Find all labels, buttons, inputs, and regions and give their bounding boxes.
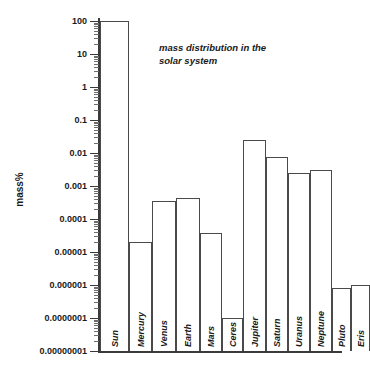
bar-label-eris: Eris <box>356 330 366 347</box>
bar-mercury: Mercury <box>129 242 152 351</box>
y-axis-minor-tick <box>94 163 99 164</box>
bar-uranus: Uranus <box>288 173 310 351</box>
bar-eris: Eris <box>351 285 370 351</box>
y-axis-tick-label: 100 <box>72 17 87 26</box>
bar-label-ceres: Ceres <box>228 322 238 347</box>
y-axis-minor-tick <box>94 34 99 35</box>
chart-title-line-1: mass distribution in the <box>159 41 309 54</box>
y-axis-minor-tick <box>94 287 99 288</box>
y-axis-minor-tick <box>94 335 99 336</box>
y-axis-minor-tick <box>94 189 99 190</box>
y-axis-minor-tick <box>94 89 99 90</box>
y-axis-minor-tick <box>94 122 99 123</box>
y-axis-minor-tick <box>94 90 99 91</box>
y-axis-minor-tick <box>94 71 99 72</box>
bar-label-earth: Earth <box>183 324 193 347</box>
y-axis-minor-tick <box>94 254 99 255</box>
y-axis-minor-tick <box>94 203 99 204</box>
y-axis-minor-tick <box>94 170 99 171</box>
y-axis-minor-tick <box>94 67 99 68</box>
bar-label-mars: Mars <box>206 326 216 347</box>
y-axis-minor-tick <box>94 23 99 24</box>
y-axis-minor-tick <box>94 321 99 322</box>
y-axis-minor-tick <box>94 155 99 156</box>
y-axis-minor-tick <box>94 188 99 189</box>
y-axis-minor-tick <box>94 331 99 332</box>
y-axis-minor-tick <box>94 130 99 131</box>
y-axis-minor-tick <box>94 92 99 93</box>
y-axis-minor-tick <box>94 77 99 78</box>
y-axis-major-tick <box>90 351 99 352</box>
y-axis-minor-tick <box>94 325 99 326</box>
y-axis-minor-tick <box>94 226 99 227</box>
y-axis-minor-tick <box>94 26 99 27</box>
y-axis-minor-tick <box>94 308 99 309</box>
y-axis-tick-label: 0.001 <box>64 182 87 191</box>
y-axis-minor-tick <box>94 31 99 32</box>
y-axis-minor-tick <box>94 125 99 126</box>
y-axis-minor-tick <box>94 28 99 29</box>
y-axis-tick-label: 1 <box>82 83 87 92</box>
y-axis-minor-tick <box>94 59 99 60</box>
y-axis-minor-tick <box>94 110 99 111</box>
y-axis-title: mass% <box>14 160 25 220</box>
y-axis-minor-tick <box>94 137 99 138</box>
y-axis-minor-tick <box>94 292 99 293</box>
y-axis-minor-tick <box>94 94 99 95</box>
y-axis-minor-tick <box>94 193 99 194</box>
y-axis-minor-tick <box>94 265 99 266</box>
chart-title-line-2: solar system <box>159 54 309 67</box>
bar-ceres: Ceres <box>222 318 243 351</box>
bar-sun: Sun <box>100 21 129 351</box>
y-axis-minor-tick <box>94 44 99 45</box>
bar-neptune: Neptune <box>310 170 332 351</box>
bar-pluto: Pluto <box>332 288 351 351</box>
bar-venus: Venus <box>152 201 176 351</box>
y-axis-minor-tick <box>94 224 99 225</box>
y-axis-tick-label: 0.1 <box>74 116 87 125</box>
y-axis-minor-tick <box>94 100 99 101</box>
y-axis-tick-label: 0.00000001 <box>39 347 87 356</box>
y-axis-minor-tick <box>94 133 99 134</box>
y-axis-minor-tick <box>94 229 99 230</box>
y-axis-minor-tick <box>94 143 99 144</box>
y-axis-tick-label: 0.0000001 <box>44 314 87 323</box>
y-axis-minor-tick <box>94 262 99 263</box>
y-axis-minor-tick <box>94 298 99 299</box>
y-axis-minor-tick <box>94 209 99 210</box>
y-axis-minor-tick <box>94 295 99 296</box>
y-axis-minor-tick <box>94 288 99 289</box>
y-axis-tick-label: 0.000001 <box>49 281 87 290</box>
y-axis-minor-tick <box>94 259 99 260</box>
y-axis-minor-tick <box>94 56 99 57</box>
y-axis-minor-tick <box>94 166 99 167</box>
bar-label-saturn: Saturn <box>272 318 282 347</box>
bar-label-uranus: Uranus <box>294 316 304 347</box>
y-axis-minor-tick <box>94 127 99 128</box>
y-axis-minor-tick <box>94 191 99 192</box>
y-axis-minor-tick <box>94 176 99 177</box>
y-axis-minor-tick <box>94 104 99 105</box>
y-axis-tick-label: 0.0001 <box>59 215 87 224</box>
y-axis-tick-label: 10 <box>77 50 87 59</box>
y-axis-minor-tick <box>94 341 99 342</box>
bar-mars: Mars <box>200 233 222 351</box>
y-axis-minor-tick <box>94 255 99 256</box>
y-axis-minor-tick <box>94 97 99 98</box>
y-axis-minor-tick <box>94 38 99 39</box>
y-axis-minor-tick <box>94 257 99 258</box>
bar-label-mercury: Mercury <box>136 312 146 347</box>
y-axis-minor-tick <box>94 221 99 222</box>
chart-title: mass distribution in the solar system <box>159 41 309 67</box>
y-axis-minor-tick <box>94 158 99 159</box>
y-axis-minor-tick <box>94 328 99 329</box>
y-axis-minor-tick <box>94 320 99 321</box>
bar-jupiter: Jupiter <box>243 140 266 351</box>
y-axis-minor-tick <box>94 156 99 157</box>
x-axis-line <box>98 351 342 353</box>
y-axis-tick-label: 0.01 <box>69 149 87 158</box>
y-axis-minor-tick <box>94 199 99 200</box>
bar-saturn: Saturn <box>266 157 288 351</box>
y-axis-minor-tick <box>94 61 99 62</box>
y-axis-minor-tick <box>94 323 99 324</box>
